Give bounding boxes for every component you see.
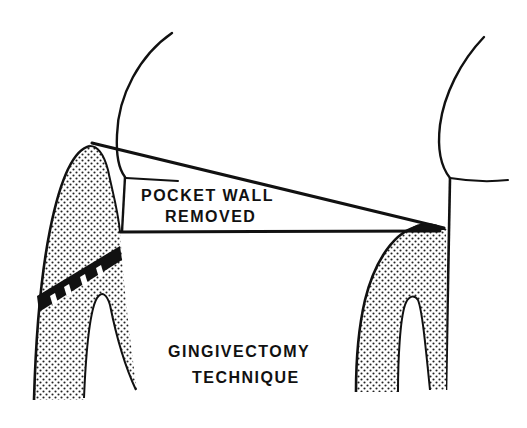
right-gingiva-bone-stippled xyxy=(356,224,446,392)
pocket-wall-label: POCKET WALL xyxy=(141,186,274,206)
removed-label: REMOVED xyxy=(165,207,256,227)
pocket-base-line xyxy=(120,231,440,232)
gingivectomy-label: GINGIVECTOMY xyxy=(168,342,310,362)
right-tooth-crown-outline xyxy=(439,37,508,390)
technique-label: TECHNIQUE xyxy=(192,368,300,388)
gingivectomy-diagram xyxy=(0,0,527,428)
